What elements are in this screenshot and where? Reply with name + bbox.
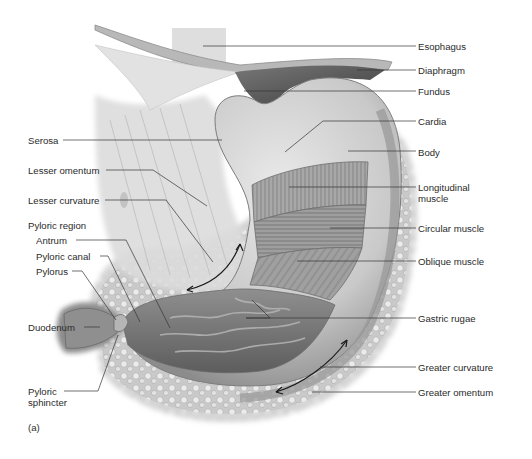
label-pylorus: Pylorus: [36, 266, 68, 277]
label-oblique-muscle: Oblique muscle: [418, 256, 484, 267]
label-body: Body: [418, 147, 440, 158]
label-lesser-curvature: Lesser curvature: [28, 195, 99, 206]
label-pyloric-canal: Pyloric canal: [36, 251, 90, 262]
label-greater-omentum: Greater omentum: [418, 387, 493, 398]
label-antrum: Antrum: [36, 235, 67, 246]
label-longitudinal-line1: Longitudinal: [418, 182, 470, 193]
label-pyloric-region: Pyloric region: [28, 220, 86, 231]
panel-label: (a): [28, 422, 40, 433]
label-serosa: Serosa: [28, 135, 58, 146]
label-gastric-rugae: Gastric rugae: [418, 313, 476, 324]
label-pyloric-sphincter-line1: Pyloric: [28, 386, 67, 397]
stomach-anatomy-figure: Esophagus Diaphragm Fundus Cardia Body L…: [0, 0, 532, 459]
label-esophagus: Esophagus: [418, 41, 466, 52]
label-longitudinal-muscle: Longitudinal muscle: [418, 182, 470, 204]
label-pyloric-sphincter-line2: sphincter: [28, 397, 67, 408]
label-circular-muscle: Circular muscle: [418, 223, 484, 234]
label-greater-curvature: Greater curvature: [418, 362, 493, 373]
label-duodenum: Duodenum: [28, 322, 75, 333]
label-fundus: Fundus: [418, 86, 450, 97]
label-pyloric-sphincter: Pyloric sphincter: [28, 386, 67, 408]
label-longitudinal-line2: muscle: [418, 193, 470, 204]
label-diaphragm: Diaphragm: [418, 65, 465, 76]
label-lesser-omentum: Lesser omentum: [28, 165, 99, 176]
label-cardia: Cardia: [418, 116, 446, 127]
